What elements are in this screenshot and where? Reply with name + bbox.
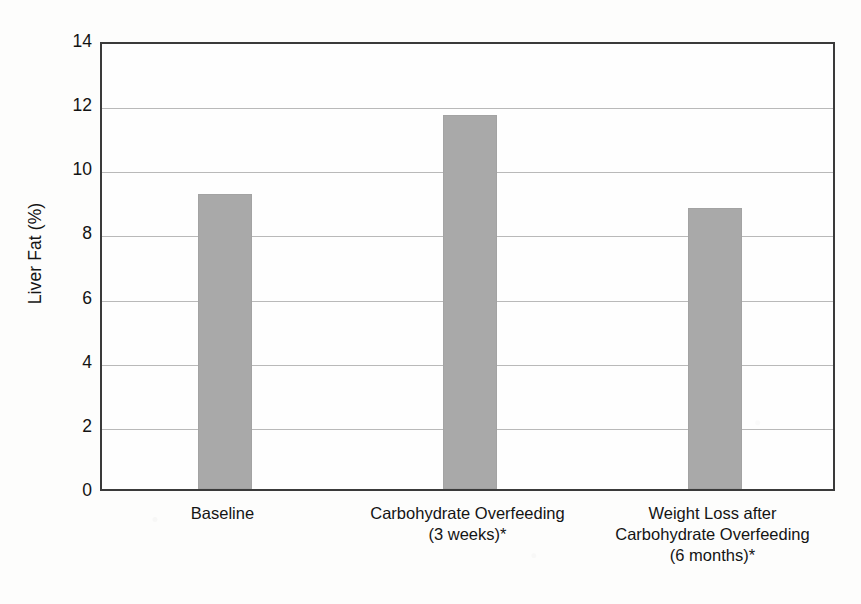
- x-axis-category-label-line: Weight Loss after: [590, 503, 835, 524]
- y-axis-tick-label: 2: [50, 418, 92, 436]
- x-axis-category-label-line: (6 months)*: [590, 545, 835, 566]
- bar-chart-figure: Liver Fat (%) 02468101214 BaselineCarboh…: [0, 0, 861, 604]
- x-axis-category-label-line: Carbohydrate Overfeeding: [590, 524, 835, 545]
- y-axis-title: Liver Fat (%): [25, 144, 46, 364]
- y-axis-tick-labels: 02468101214: [50, 0, 92, 604]
- y-axis-tick-label: 10: [50, 162, 92, 180]
- bar: [443, 115, 497, 489]
- bar: [688, 208, 742, 489]
- bars-layer: [102, 44, 833, 489]
- plot-area: [100, 42, 835, 491]
- y-axis-tick-label: 4: [50, 354, 92, 372]
- y-axis-tick-label: 8: [50, 226, 92, 244]
- y-axis-tick-label: 14: [50, 33, 92, 51]
- x-axis-category-label-line: Baseline: [100, 503, 345, 524]
- x-axis-category-label: Carbohydrate Overfeeding(3 weeks)*: [345, 503, 590, 545]
- x-axis-category-label-line: Carbohydrate Overfeeding: [345, 503, 590, 524]
- x-axis-category-label-line: (3 weeks)*: [345, 524, 590, 545]
- x-axis-category-labels: BaselineCarbohydrate Overfeeding(3 weeks…: [100, 503, 835, 598]
- y-axis-tick-label: 6: [50, 290, 92, 308]
- x-axis-category-label: Weight Loss afterCarbohydrate Overfeedin…: [590, 503, 835, 566]
- bar: [198, 194, 252, 489]
- y-axis-tick-label: 0: [50, 482, 92, 500]
- y-axis-tick-label: 12: [50, 97, 92, 115]
- x-axis-category-label: Baseline: [100, 503, 345, 524]
